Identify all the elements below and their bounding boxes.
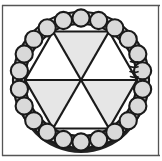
figure-panel <box>0 0 162 161</box>
squiggle-mark <box>131 77 139 78</box>
ring-cell <box>106 124 123 141</box>
ring-cell <box>129 45 146 62</box>
ring-cell <box>90 131 107 148</box>
squiggle-mark <box>131 62 139 63</box>
ring-cell <box>11 62 28 79</box>
squiggle-mark <box>130 72 138 73</box>
cross-section-diagram <box>0 0 162 161</box>
ring-cell <box>55 131 72 148</box>
ring-cell <box>72 133 89 150</box>
ring-cell <box>134 81 151 98</box>
ring-cell <box>11 81 28 98</box>
ring-cell <box>39 19 56 36</box>
ring-cell <box>16 97 33 114</box>
ring-cell <box>72 9 89 26</box>
squiggle-mark <box>130 67 138 68</box>
ring-cell <box>90 12 107 29</box>
ring-cell <box>55 12 72 29</box>
